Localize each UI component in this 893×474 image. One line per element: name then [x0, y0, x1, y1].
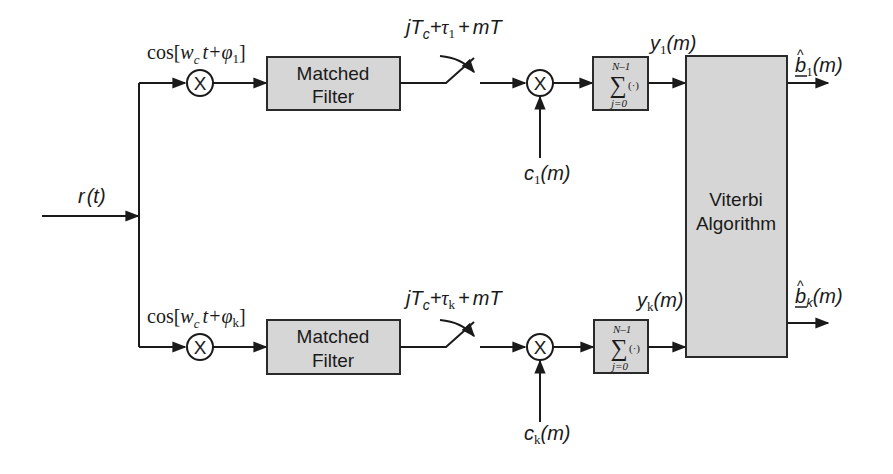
- code-label-k: ck(m): [524, 422, 570, 447]
- carrier-label-1: cos[wct+φ1]: [147, 41, 246, 67]
- svg-text:N–1: N–1: [612, 323, 631, 335]
- input-signal: r(t): [42, 185, 138, 216]
- summation-block-1: N–1 ∑ (·) j=0: [593, 57, 648, 110]
- multiplier-symbol: X: [194, 73, 207, 94]
- carrier-label-k: cos[wct+φk]: [147, 305, 246, 331]
- svg-text:Filter: Filter: [312, 86, 355, 107]
- code-mixer-k: X: [527, 334, 553, 360]
- sampling-time-label-1: jTc+τ1+mT: [403, 16, 503, 42]
- svg-text:(·): (·): [629, 342, 640, 355]
- svg-text:j=0: j=0: [610, 360, 628, 372]
- svg-text:Viterbi: Viterbi: [709, 189, 763, 210]
- svg-text:Filter: Filter: [312, 350, 355, 371]
- code-label-1: c1(m): [524, 162, 570, 187]
- sampler-switch-1: [400, 56, 525, 83]
- svg-text:Algorithm: Algorithm: [696, 213, 776, 234]
- svg-text:Matched: Matched: [297, 63, 370, 84]
- sampler-switch-k: [400, 320, 525, 347]
- viterbi-algorithm-block: Viterbi Algorithm: [686, 56, 787, 357]
- svg-text:Matched: Matched: [297, 326, 370, 347]
- sampling-time-label-k: jTc+τk+mT: [403, 287, 503, 313]
- svg-text:∑: ∑: [610, 335, 627, 362]
- matched-filter-k: Matched Filter: [267, 320, 400, 374]
- mixer-k: X: [187, 334, 213, 360]
- svg-text:^: ^: [797, 47, 804, 63]
- y-label-k: yk(m): [635, 289, 683, 314]
- input-label: r(t): [78, 185, 106, 207]
- svg-text:X: X: [534, 337, 547, 358]
- decision-label-k: bk(m) ^: [795, 278, 843, 310]
- decision-label-1: b1(m) ^: [795, 47, 843, 79]
- matched-filter-1: Matched Filter: [267, 57, 400, 110]
- svg-text:(·): (·): [628, 79, 639, 92]
- svg-text:X: X: [194, 337, 207, 358]
- svg-text:X: X: [534, 73, 547, 94]
- mixer-1: X: [187, 70, 213, 96]
- svg-text:^: ^: [797, 278, 804, 294]
- y-label-1: y1(m): [648, 32, 696, 57]
- summation-block-k: N–1 ∑ (·) j=0: [594, 320, 648, 373]
- svg-text:N–1: N–1: [611, 60, 630, 72]
- svg-text:j=0: j=0: [609, 97, 627, 109]
- svg-text:∑: ∑: [609, 72, 626, 99]
- dsss-receiver-diagram: r(t) X cos[wct+φ1] Matched Filter jTc+τ1…: [0, 0, 893, 474]
- code-mixer-1: X: [527, 70, 553, 96]
